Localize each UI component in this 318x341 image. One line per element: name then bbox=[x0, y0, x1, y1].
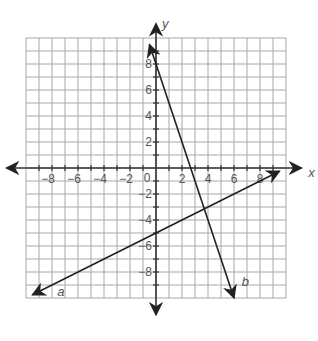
y-tick-label: −4 bbox=[138, 213, 152, 227]
y-tick-label: 2 bbox=[145, 135, 152, 149]
line-b-label: b bbox=[242, 274, 249, 289]
y-axis-label: y bbox=[161, 16, 170, 31]
coordinate-plane: −8−6−4−224688642−2−4−6−80xyab bbox=[0, 0, 318, 341]
y-tick-label: −8 bbox=[138, 265, 152, 279]
x-axis-label: x bbox=[307, 165, 315, 180]
x-tick-label: 2 bbox=[179, 172, 186, 186]
y-tick-label: −2 bbox=[138, 187, 152, 201]
x-tick-label: −2 bbox=[119, 172, 133, 186]
x-tick-label: 4 bbox=[205, 172, 212, 186]
x-tick-label: 6 bbox=[231, 172, 238, 186]
y-tick-label: 4 bbox=[145, 109, 152, 123]
y-tick-label: 8 bbox=[145, 57, 152, 71]
origin-label: 0 bbox=[144, 171, 151, 185]
x-tick-label: −4 bbox=[93, 172, 107, 186]
line-a-label: a bbox=[57, 284, 64, 299]
x-tick-label: −8 bbox=[41, 172, 55, 186]
x-tick-label: −6 bbox=[67, 172, 81, 186]
y-tick-label: 6 bbox=[145, 83, 152, 97]
